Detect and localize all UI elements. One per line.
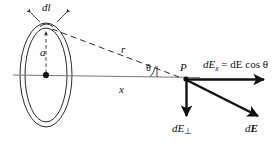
label-theta: θ xyxy=(146,63,151,73)
equation-rest: = dE cos θ xyxy=(219,58,268,70)
label-a: a xyxy=(40,47,46,58)
axis-line xyxy=(13,75,200,78)
dE-perp-lead: dE xyxy=(172,122,184,134)
label-equation-dEx: dEx = dE cos θ xyxy=(203,59,268,73)
dE-perp-subscript: ⊥ xyxy=(184,126,192,136)
dE-vector-E: E xyxy=(251,122,258,134)
label-r: r xyxy=(121,44,125,55)
theta-angle-arc xyxy=(150,66,157,77)
label-point-P: P xyxy=(180,62,187,73)
diagram-canvas xyxy=(0,0,276,151)
label-x: x xyxy=(119,84,124,95)
label-dE-vector: dE xyxy=(245,123,258,134)
label-dl: dl xyxy=(42,2,51,13)
ring-electric-field-diagram: dl a r x θ P dEx = dE cos θ dE⊥ dE xyxy=(0,0,276,151)
vector-dE-resultant xyxy=(187,80,259,116)
label-dE-perpendicular: dE⊥ xyxy=(172,123,192,136)
dl-segment-marks xyxy=(31,13,66,22)
equation-lead: dE xyxy=(203,58,215,70)
